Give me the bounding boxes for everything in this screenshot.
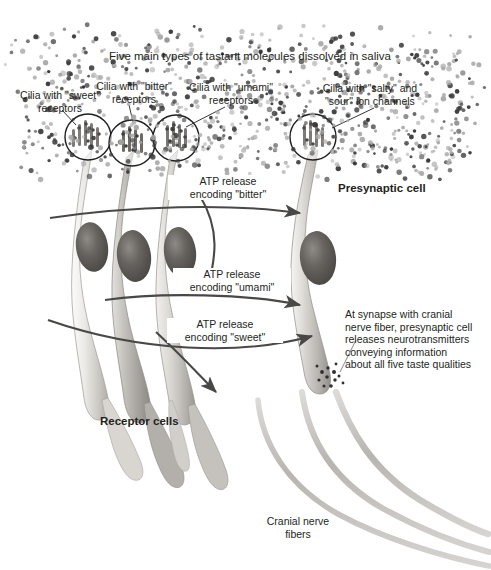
cilia-label-salty-sour-line1: Cilia with "salty" and — [300, 82, 440, 95]
cilia-tuft-bitter — [109, 120, 155, 166]
atp-arrow-bitter-to-presynaptic — [50, 207, 300, 218]
cilia-tuft-salty-sour — [290, 114, 336, 160]
cranial-nerve-fibers-label: Cranial nerve fibers — [248, 515, 348, 540]
cranial-nerve-fibers-line1: Cranial nerve — [248, 515, 348, 528]
synapse-note: At synapse with cranial nerve fiber, pre… — [345, 308, 491, 371]
synapse-note-line3: releases neurotransmitters — [345, 333, 491, 346]
synapse-note-line5: about all five taste qualities — [345, 358, 491, 371]
cilia-label-umami-line1: Cilia with "umami" — [178, 81, 284, 94]
diagram-canvas: Five main types of tastant molecules dis… — [0, 0, 491, 570]
atp-label-umami-line2: encoding "umami" — [173, 281, 291, 294]
cilia-label-salty-sour-line2: "sour" ion channels — [300, 95, 440, 108]
cilia-label-umami: Cilia with "umami" receptors — [178, 81, 284, 106]
atp-label-sweet-line2: encoding "sweet" — [167, 331, 283, 344]
atp-label-bitter: ATP release encoding "bitter" — [168, 175, 288, 200]
cilia-label-bitter-line2: receptors — [82, 93, 186, 106]
synapse-note-line1: At synapse with cranial — [345, 308, 491, 321]
cranial-nerve-fibers-line2: fibers — [248, 528, 348, 541]
tastant-title: Five main types of tastant molecules dis… — [60, 50, 440, 63]
presynaptic-cell-label: Presynaptic cell — [338, 182, 426, 195]
atp-label-sweet: ATP release encoding "sweet" — [167, 318, 283, 343]
cilia-label-bitter-line1: Cilia with "bitter" — [82, 80, 186, 93]
cilia-label-umami-line2: receptors — [178, 94, 284, 107]
atp-label-umami: ATP release encoding "umami" — [173, 268, 291, 293]
synapse-note-line2: nerve fiber, presynaptic cell — [345, 321, 491, 334]
cilia-label-bitter: Cilia with "bitter" receptors — [82, 80, 186, 105]
cilia-label-salty-sour: Cilia with "salty" and "sour" ion channe… — [300, 82, 440, 107]
cilia-tuft-umami — [153, 115, 199, 161]
receptor-cell-sweet — [72, 150, 143, 480]
receptor-cells-label: Receptor cells — [100, 415, 179, 428]
atp-arrow-umami — [105, 295, 300, 305]
atp-label-bitter-line1: ATP release — [168, 175, 288, 188]
synapse-note-line4: conveying information — [345, 346, 491, 359]
atp-label-umami-line1: ATP release — [173, 268, 291, 281]
atp-label-sweet-line1: ATP release — [167, 318, 283, 331]
atp-label-bitter-line2: encoding "bitter" — [168, 188, 288, 201]
